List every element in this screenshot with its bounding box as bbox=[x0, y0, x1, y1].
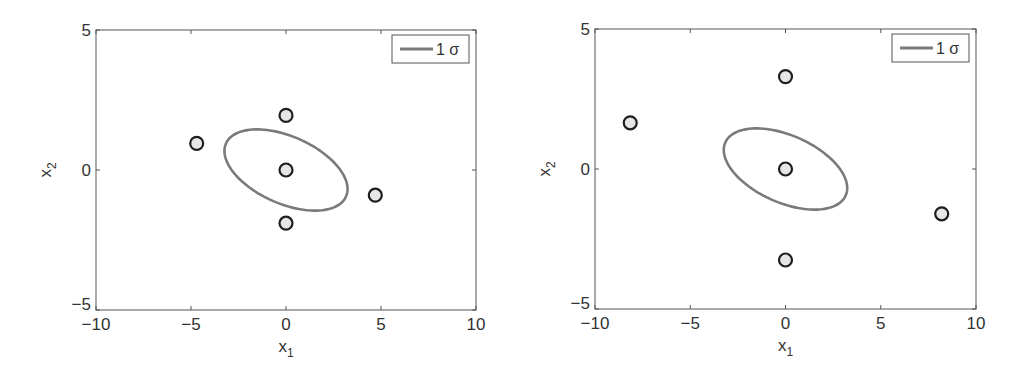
legend: 1 σ bbox=[892, 34, 969, 62]
x-axis-label: x1 bbox=[778, 336, 794, 359]
right-plot: −10−50510−505x1x21 σ bbox=[0, 0, 510, 376]
x-tick-label: −5 bbox=[681, 314, 700, 333]
right-plot-canvas: −10−50510−505x1x21 σ bbox=[0, 0, 1020, 376]
y-tick-label: 0 bbox=[581, 160, 590, 179]
sigma-point-marker bbox=[779, 254, 792, 267]
sigma-point-marker bbox=[779, 70, 792, 83]
y-tick-label: −5 bbox=[571, 294, 590, 313]
x-tick-label: −10 bbox=[581, 314, 610, 333]
sigma-point-marker bbox=[779, 163, 792, 176]
x-tick-label: 10 bbox=[967, 314, 986, 333]
sigma-point-marker bbox=[935, 207, 948, 220]
y-tick-label: 5 bbox=[581, 20, 590, 39]
x-tick-label: 0 bbox=[781, 314, 790, 333]
y-axis-label: x2 bbox=[535, 161, 558, 177]
sigma-point-marker bbox=[624, 116, 637, 129]
legend-label: 1 σ bbox=[936, 40, 959, 57]
x-tick-label: 5 bbox=[876, 314, 885, 333]
